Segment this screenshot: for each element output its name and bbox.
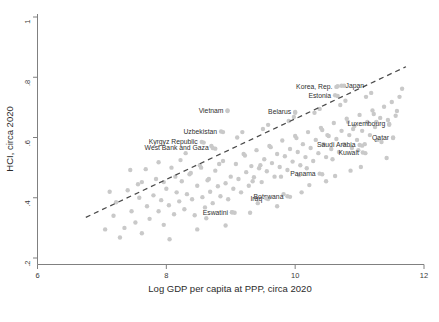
scatter-point [357, 113, 361, 117]
annotated-scatter-point [387, 122, 391, 126]
scatter-point [258, 163, 262, 167]
scatter-point [384, 156, 388, 160]
point-label: Japan [346, 82, 365, 90]
scatter-point [183, 151, 187, 155]
scatter-point [400, 87, 404, 91]
scatter-point [275, 204, 279, 208]
scatter-point [154, 177, 158, 181]
scatter-point [174, 190, 178, 194]
scatter-point [111, 214, 115, 218]
scatter-point [144, 167, 148, 171]
scatter-point [190, 197, 194, 201]
scatter-point [162, 223, 166, 227]
y-tick-label: .8 [23, 80, 32, 86]
scatter-point [268, 145, 272, 149]
scatter-point [145, 204, 149, 208]
scatter-point [140, 180, 144, 184]
scatter-point [348, 168, 352, 172]
scatter-point [308, 146, 312, 150]
scatter-plot: 681012.2.4.6.81 VietnamBelarusKorea, Rep… [0, 0, 439, 322]
scatter-point [236, 177, 240, 181]
scatter-point [177, 199, 181, 203]
scatter-point [292, 115, 296, 119]
scatter-point [307, 183, 311, 187]
annotated-scatter-point [264, 196, 268, 200]
scatter-point [285, 168, 289, 172]
scatter-point [254, 148, 258, 152]
annotated-scatter-point [333, 93, 337, 97]
scatter-point [231, 187, 235, 191]
scatter-point [207, 177, 211, 181]
scatter-point [266, 123, 270, 127]
scatter-point [169, 165, 173, 169]
annotated-scatter-point [285, 194, 289, 198]
x-tick-label: 8 [164, 271, 168, 280]
chart-figure: 681012.2.4.6.81 VietnamBelarusKorea, Rep… [0, 0, 439, 322]
scatter-point [270, 161, 274, 165]
scatter-point [333, 174, 337, 178]
scatter-point [298, 163, 302, 167]
scatter-point [279, 174, 283, 178]
scatter-point [325, 133, 329, 137]
trend-line [86, 67, 406, 218]
scatter-point [360, 129, 364, 133]
scatter-point [213, 168, 217, 172]
annotated-scatter-point [230, 210, 234, 214]
scatter-point [317, 107, 321, 111]
scatter-point [234, 162, 238, 166]
annotated-scatter-point [317, 171, 321, 175]
point-label: Korea, Rep. [296, 83, 332, 91]
y-tick-label: .6 [23, 140, 32, 146]
scatter-point [182, 207, 186, 211]
x-axis-label: Log GDP per capita at PPP, circa 2020 [148, 283, 311, 294]
scatter-point [137, 196, 141, 200]
annotated-scatter-point [339, 83, 343, 87]
scatter-point [278, 165, 282, 169]
y-axis-label: HCI, circa 2020 [4, 106, 15, 171]
y-tick-label: .2 [23, 261, 32, 267]
scatter-point [247, 184, 251, 188]
scatter-point [343, 99, 347, 103]
scatter-point [180, 179, 184, 183]
scatter-point [359, 165, 363, 169]
scatter-point [140, 231, 144, 235]
point-label: Kuwait [338, 149, 359, 156]
scatter-point [301, 142, 305, 146]
annotated-scatter-point [225, 108, 229, 112]
scatter-point [195, 227, 199, 231]
x-tick-label: 10 [291, 271, 299, 280]
scatter-point [303, 155, 307, 159]
scatter-point [250, 179, 254, 183]
scatter-point [390, 100, 394, 104]
annotated-scatter-point [391, 135, 395, 139]
scatter-point [312, 111, 316, 115]
scatter-point [240, 130, 244, 134]
scatter-point [259, 180, 263, 184]
scatter-point [189, 171, 193, 175]
scatter-point [195, 184, 199, 188]
scatter-point [372, 112, 376, 116]
scatter-point [320, 128, 324, 132]
scatter-point [280, 138, 284, 142]
scatter-point [243, 153, 247, 157]
scatter-point [283, 154, 287, 158]
scatter-point [103, 227, 107, 231]
scatter-point [172, 212, 176, 216]
point-label: Saudi Arabia [317, 141, 356, 148]
data-points [103, 83, 404, 241]
scatter-point [221, 159, 225, 163]
point-label: Eswatini [203, 209, 229, 216]
scatter-point [178, 158, 182, 162]
scatter-point [299, 190, 303, 194]
scatter-point [249, 164, 253, 168]
scatter-point [229, 174, 233, 178]
scatter-point [156, 160, 160, 164]
scatter-point [226, 197, 230, 201]
scatter-point [252, 175, 256, 179]
scatter-point [338, 103, 342, 107]
axis-ticks: 681012.2.4.6.81 [23, 17, 428, 280]
scatter-point [167, 203, 171, 207]
scatter-point [382, 105, 386, 109]
x-tick-label: 12 [420, 271, 428, 280]
scatter-point [339, 129, 343, 133]
